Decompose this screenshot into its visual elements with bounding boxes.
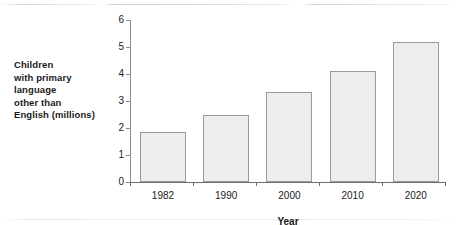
x-tick-mark [256, 182, 257, 186]
x-axis-title: Year [130, 216, 446, 225]
y-axis-title-line-4: other than [14, 97, 122, 110]
y-tick-label: 4 [118, 67, 124, 80]
x-axis-line [130, 182, 446, 183]
x-tick-mark [382, 182, 383, 186]
y-axis-title-line-2: with primary [14, 72, 122, 85]
bar [330, 71, 376, 182]
y-tick-label: 1 [118, 148, 124, 161]
y-axis-title: Children with primary language other tha… [14, 59, 122, 122]
y-tick-mark [126, 128, 131, 129]
chart-page: Children with primary language other tha… [0, 0, 457, 225]
y-tick-mark [126, 101, 131, 102]
y-tick-mark [126, 155, 131, 156]
x-tick-mark [445, 182, 446, 186]
y-tick-label: 3 [118, 94, 124, 107]
x-tick-mark [193, 182, 194, 186]
y-tick-label: 0 [118, 175, 124, 188]
y-tick-label: 5 [118, 40, 124, 53]
scan-artifact-line-top [0, 4, 457, 5]
y-tick-label: 6 [118, 13, 124, 26]
bar [266, 92, 312, 182]
bar [203, 115, 249, 183]
x-tick-label: 2010 [321, 190, 384, 201]
x-tick-mark [319, 182, 320, 186]
y-tick-mark [126, 47, 131, 48]
plot-area: 0123456 19821990200020102020 Year [130, 20, 446, 182]
x-tick-label: 1990 [195, 190, 258, 201]
y-axis-title-line-1: Children [14, 59, 122, 72]
bar [393, 42, 439, 182]
x-tick-label: 2020 [384, 190, 447, 201]
y-tick-mark [126, 74, 131, 75]
y-tick-label: 2 [118, 121, 124, 134]
x-tick-label: 1982 [131, 190, 194, 201]
y-axis-title-line-5: English (millions) [14, 109, 122, 122]
x-tick-mark-origin [130, 182, 131, 186]
y-axis-title-line-3: language [14, 84, 122, 97]
bar [140, 132, 186, 182]
x-tick-label: 2000 [258, 190, 321, 201]
y-tick-mark [126, 20, 131, 21]
